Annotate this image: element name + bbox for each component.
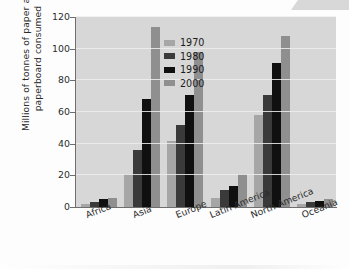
- bar-asia-1970: [124, 174, 133, 207]
- y-tick-mark: [70, 80, 75, 81]
- gridline: [76, 174, 336, 175]
- bars-layer: [76, 17, 336, 207]
- gridline: [76, 79, 336, 80]
- y-tick-mark: [70, 144, 75, 145]
- legend-item-1990: 1990: [164, 64, 204, 75]
- y-tick-label: 80: [40, 74, 70, 85]
- y-tick-mark: [70, 49, 75, 50]
- y-tick-mark: [70, 207, 75, 208]
- legend-item-1970: 1970: [164, 37, 204, 48]
- legend-swatch-icon: [164, 53, 175, 59]
- legend-item-2000: 2000: [164, 78, 204, 89]
- y-tick-mark: [70, 112, 75, 113]
- bar-asia-2000: [151, 27, 160, 208]
- bar-north-america-1990: [272, 63, 281, 207]
- bar-north-america-2000: [281, 36, 290, 207]
- y-tick-mark: [70, 17, 75, 18]
- y-tick-label: 60: [40, 106, 70, 117]
- y-tick-label: 40: [40, 138, 70, 149]
- legend-swatch-icon: [164, 67, 175, 73]
- legend-swatch-icon: [164, 40, 175, 46]
- bar-asia-1990: [142, 99, 151, 207]
- plot-area: 1970198019902000: [76, 17, 336, 207]
- paper-consumption-bar-chart: Millions of tonnes of paper and paperboa…: [0, 0, 349, 269]
- legend-label: 1990: [180, 64, 204, 75]
- y-axis-line: [75, 17, 76, 208]
- legend-label: 2000: [180, 78, 204, 89]
- legend: 1970198019902000: [164, 37, 204, 89]
- gridline: [76, 143, 336, 144]
- legend-label: 1970: [180, 37, 204, 48]
- y-tick-label: 100: [40, 43, 70, 54]
- scan-artifact-top-right: [291, 0, 349, 10]
- legend-item-1980: 1980: [164, 51, 204, 62]
- y-tick-mark: [70, 175, 75, 176]
- bar-asia-1980: [133, 150, 142, 207]
- gridline: [76, 48, 336, 49]
- gridline: [76, 111, 336, 112]
- scan-artifact-bottom-edge: [0, 265, 349, 269]
- y-tick-label: 0: [40, 201, 70, 212]
- legend-swatch-icon: [164, 80, 175, 86]
- bar-europe-1980: [176, 125, 185, 207]
- legend-label: 1980: [180, 51, 204, 62]
- y-tick-label: 120: [40, 11, 70, 22]
- y-tick-label: 20: [40, 169, 70, 180]
- gridline: [76, 16, 336, 17]
